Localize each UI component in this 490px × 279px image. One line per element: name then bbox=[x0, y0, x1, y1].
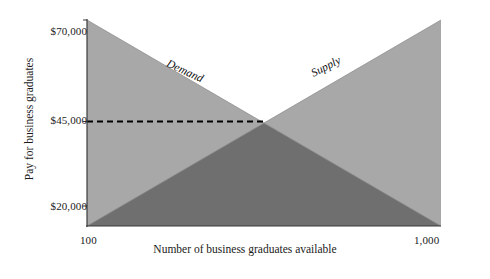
y-tick-label-45000: $45,000 bbox=[51, 114, 87, 126]
y-tick-label-70000: $70,000 bbox=[51, 25, 87, 37]
y-tick-label-20000: $20,000 bbox=[51, 200, 87, 212]
x-axis-title: Number of business graduates available bbox=[0, 243, 490, 255]
y-axis-title: Pay for business graduates bbox=[23, 19, 35, 219]
